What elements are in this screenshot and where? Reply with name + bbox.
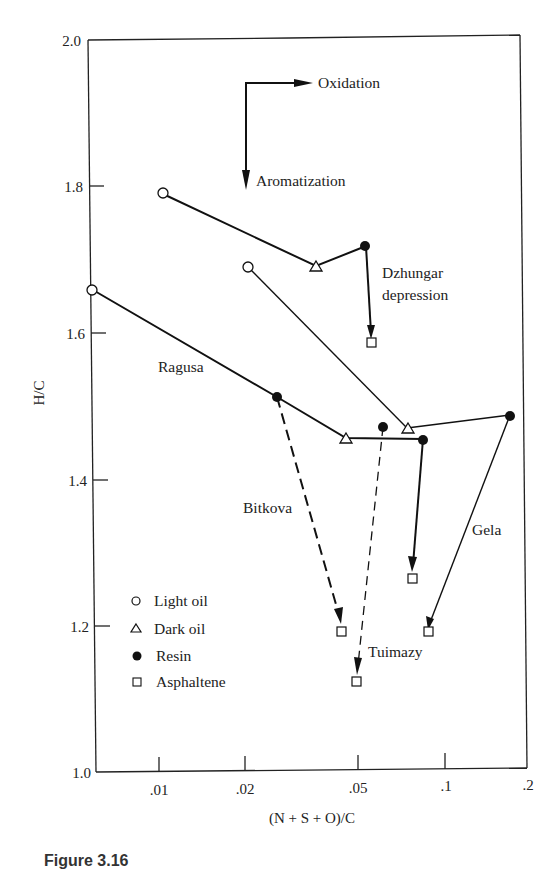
dzhungar-label-line1: Dzhungar <box>382 264 444 281</box>
y-tick-label: 1.4 <box>68 473 87 489</box>
legend: Light oil Dark oil Resin Asphaltene <box>131 592 226 690</box>
y-tick-label: 1.0 <box>72 765 91 781</box>
legend-light-oil-label: Light oil <box>154 592 208 609</box>
right-frame-line <box>520 35 527 768</box>
x-tick-label: .2 <box>522 777 533 793</box>
series-bitkova: Bitkova <box>243 397 343 624</box>
tuimazy-label: Tuimazy <box>368 643 423 660</box>
light-oil-point <box>87 285 97 295</box>
aromatization-label: Aromatization <box>256 172 346 189</box>
resin-point <box>505 411 515 421</box>
legend-light-oil-icon <box>132 597 140 605</box>
series-gela: Gela <box>248 267 510 630</box>
y-tick-label: 1.8 <box>64 179 83 195</box>
x-axis-title: (N + S + O)/C <box>269 810 355 827</box>
asphaltene-point <box>424 627 433 636</box>
y-ticks: 2.0 1.8 1.6 1.4 1.2 1.0 <box>62 33 110 781</box>
resin-point <box>360 241 370 251</box>
y-axis-title: H/C <box>31 380 47 405</box>
aromatization-arrowhead-icon <box>242 170 250 190</box>
series-tuimazy: Tuimazy <box>354 427 423 675</box>
ragusa-label: Ragusa <box>158 358 204 375</box>
y-tick-label: 2.0 <box>62 33 81 49</box>
oxidation-arrowhead-icon <box>294 79 313 87</box>
light-oil-point <box>243 262 253 272</box>
oxidation-label: Oxidation <box>318 74 380 91</box>
legend-dark-oil-icon <box>131 624 141 632</box>
asphaltene-point <box>367 338 376 347</box>
figure-caption: Figure 3.16 <box>44 852 128 870</box>
x-tick-label: .1 <box>440 778 451 794</box>
asphaltene-markers <box>337 338 433 686</box>
asphaltene-point <box>352 677 361 686</box>
y-axis-line <box>88 40 96 772</box>
light-oil-markers <box>87 188 253 295</box>
gela-label: Gela <box>472 521 501 538</box>
legend-resin-label: Resin <box>156 647 192 664</box>
legend-asphaltene-label: Asphaltene <box>156 673 226 690</box>
x-ticks: .01 .02 .05 .1 .2 <box>150 753 534 798</box>
y-tick-label: 1.6 <box>66 326 85 342</box>
x-tick-label: .01 <box>150 782 169 798</box>
x-axis-line <box>96 768 527 772</box>
legend-dark-oil-label: Dark oil <box>154 620 205 637</box>
resin-point <box>378 422 388 432</box>
plot-frame <box>88 35 527 772</box>
resin-point <box>272 392 282 402</box>
legend-resin-icon <box>133 652 142 661</box>
oxidation-arrow-shaft <box>246 83 296 181</box>
x-tick-label: .02 <box>236 781 255 797</box>
series-dzhungar: Dzhungar depression <box>161 193 449 339</box>
bitkova-label: Bitkova <box>243 499 292 516</box>
resin-point <box>418 435 428 445</box>
dark-oil-point <box>310 261 322 271</box>
asphaltene-point <box>408 574 417 583</box>
asphaltene-point <box>337 627 346 636</box>
y-tick-label: 1.2 <box>70 619 89 635</box>
top-frame-line-2 <box>289 35 520 38</box>
x-tick-label: .05 <box>349 780 368 796</box>
process-arrows: Oxidation Aromatization <box>242 74 380 190</box>
legend-asphaltene-icon <box>133 678 141 686</box>
dzhungar-label-line2: depression <box>382 286 449 303</box>
light-oil-point <box>158 188 168 198</box>
top-frame-line <box>88 38 289 40</box>
